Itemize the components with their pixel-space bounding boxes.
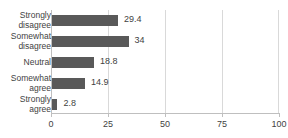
category-line: disagree: [0, 21, 51, 31]
bar-neutral[interactable]: [51, 57, 94, 68]
clipped-chart-title: [0, 0, 288, 2]
x-tick-label-0: 0: [36, 119, 66, 129]
bar-strongly-disagree[interactable]: [51, 15, 118, 26]
bar-value-label: 2.8: [63, 98, 76, 108]
x-tick-label-50: 50: [150, 119, 180, 129]
x-tick-label-25: 25: [93, 119, 123, 129]
category-line: agree: [0, 105, 51, 115]
x-tick-label-100: 100: [264, 119, 288, 129]
category-label-strongly-agree: Strongly agree: [0, 95, 51, 114]
bar-somewhat-disagree[interactable]: [51, 36, 129, 47]
category-label-somewhat-agree: Somewhat agree: [0, 74, 51, 93]
category-line: Neutral: [0, 58, 51, 68]
bar-somewhat-agree[interactable]: [51, 78, 85, 89]
plot-area: 29.4 34 18.8 14.9 2.8: [51, 10, 279, 113]
category-label-neutral: Neutral: [0, 58, 51, 68]
category-line: agree: [0, 84, 51, 94]
x-tick-25: [108, 113, 109, 117]
bar-value-label: 29.4: [124, 14, 142, 24]
bar-chart: 29.4 34 18.8 14.9 2.8 0 25 50 75: [0, 0, 288, 138]
x-tick-0: [51, 113, 52, 117]
x-tick-label-75: 75: [207, 119, 237, 129]
x-tick-75: [222, 113, 223, 117]
bar-value-label: 18.8: [100, 56, 118, 66]
gridline-50: [165, 10, 166, 113]
bar-value-label: 34: [135, 35, 145, 45]
x-tick-100: [279, 113, 280, 117]
bar-value-label: 14.9: [91, 77, 109, 87]
x-tick-50: [165, 113, 166, 117]
gridline-100: [278, 10, 279, 113]
gridline-75: [222, 10, 223, 113]
category-line: disagree: [0, 42, 51, 52]
y-axis-line: [51, 10, 52, 113]
category-label-somewhat-disagree: Somewhat disagree: [0, 32, 51, 51]
category-label-strongly-disagree: Strongly disagree: [0, 11, 51, 30]
